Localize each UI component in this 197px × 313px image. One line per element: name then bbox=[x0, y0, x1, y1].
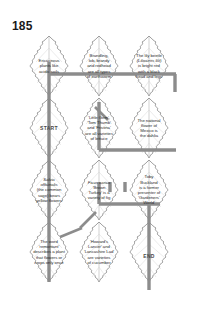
leaf-cell-r1c2 bbox=[80, 36, 118, 96]
puzzle-page: 185 bbox=[0, 0, 197, 313]
end-marker: END bbox=[130, 253, 168, 259]
leaf-cell-r1c3 bbox=[130, 36, 168, 96]
leaf-maze-puzzle: Ericaceousplants likeacidic soils Brandl… bbox=[0, 32, 197, 313]
page-number: 185 bbox=[12, 20, 33, 32]
start-marker: START bbox=[30, 125, 68, 131]
leaf-cell-r4c2 bbox=[80, 222, 118, 282]
leaf-grid-graphic bbox=[0, 32, 197, 313]
